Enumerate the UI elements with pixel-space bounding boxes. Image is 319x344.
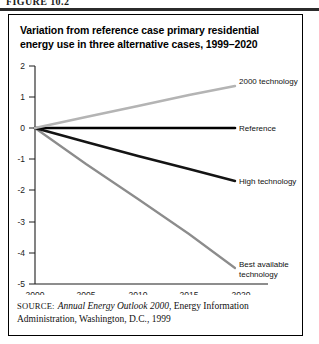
y-ticks <box>29 66 35 284</box>
header-rule <box>0 8 319 11</box>
y-tick-label: -4 <box>17 248 25 258</box>
y-tick-label: -1 <box>17 154 25 164</box>
y-tick-label: 1 <box>20 92 25 102</box>
series-line-high-technology <box>35 128 235 181</box>
source-note: SOURCE:Annual Energy Outlook 2000, Energ… <box>17 300 297 325</box>
y-tick-label: -3 <box>17 217 25 227</box>
line-chart: 2 1 0 -1 -2 -3 -4 -5 2000 2005 2010 2015… <box>8 55 303 295</box>
series-label-high-technology: High technology <box>239 177 296 186</box>
y-tick-label: -5 <box>17 279 25 289</box>
series-label-best-available-technology-line2: technology <box>239 270 278 279</box>
source-publication: Annual Energy Outlook 2000 <box>58 301 169 311</box>
series-line-best-available-technology <box>35 128 235 268</box>
x-tick-label: 2005 <box>77 290 96 295</box>
x-tick-label: 2000 <box>26 290 45 295</box>
x-tick-label: 2010 <box>129 290 148 295</box>
series-label-2000-technology: 2000 technology <box>239 77 298 86</box>
figure-page: FIGURE 10.2 Variation from reference cas… <box>0 0 319 344</box>
running-head: FIGURE 10.2 <box>6 0 146 6</box>
series-label-reference: Reference <box>239 124 276 133</box>
x-tick-label: 2015 <box>180 290 199 295</box>
chart-svg: 2 1 0 -1 -2 -3 -4 -5 2000 2005 2010 2015… <box>8 55 303 295</box>
figure-title: Variation from reference case primary re… <box>20 24 292 51</box>
x-tick-label: 2020 <box>232 290 251 295</box>
series-line-2000-technology <box>35 86 235 128</box>
series-label-best-available-technology-line1: Best available <box>239 260 289 269</box>
y-tick-label: 2 <box>20 61 25 71</box>
y-tick-label: 0 <box>20 123 25 133</box>
y-tick-label: -2 <box>17 185 25 195</box>
source-label: SOURCE: <box>17 301 55 311</box>
